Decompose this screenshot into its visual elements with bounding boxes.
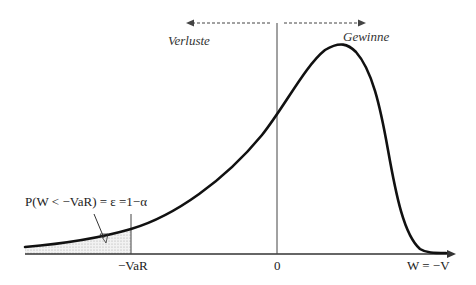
losses-label: Verluste (168, 33, 210, 49)
x-axis-label: W = −V (407, 258, 450, 274)
var-diagram: Verluste Gewinne P(W < −VaR) = ε =1−α −V… (0, 0, 476, 285)
probability-label: P(W < −VaR) = ε =1−α (25, 194, 147, 210)
var-tick-label: −VaR (118, 258, 148, 274)
right-arrow-icon (358, 20, 366, 27)
zero-tick-label: 0 (274, 258, 281, 274)
diagram-canvas (0, 0, 476, 285)
gains-label: Gewinne (343, 29, 389, 45)
left-arrow-icon (186, 20, 194, 27)
density-curve (25, 44, 446, 253)
x-axis-arrow-icon (447, 250, 456, 258)
